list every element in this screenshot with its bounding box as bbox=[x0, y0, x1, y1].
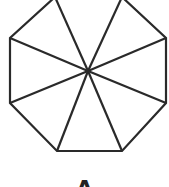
spoke-line-1 bbox=[88, 0, 122, 71]
spoke-line-0 bbox=[55, 0, 88, 71]
octagon-outline bbox=[10, 0, 166, 151]
octagon-diagram bbox=[0, 0, 169, 187]
figure-label: A bbox=[0, 178, 169, 187]
spoke-line-5 bbox=[57, 71, 88, 151]
